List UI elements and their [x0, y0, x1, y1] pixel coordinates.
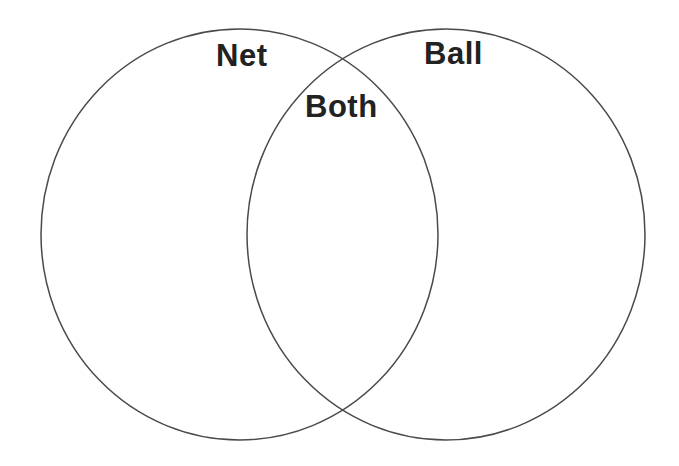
both-label: Both: [305, 91, 378, 122]
net-label: Net: [216, 40, 267, 71]
ball-label: Ball: [424, 38, 483, 69]
left-circle-net: [41, 29, 438, 440]
venn-diagram: [0, 0, 679, 466]
